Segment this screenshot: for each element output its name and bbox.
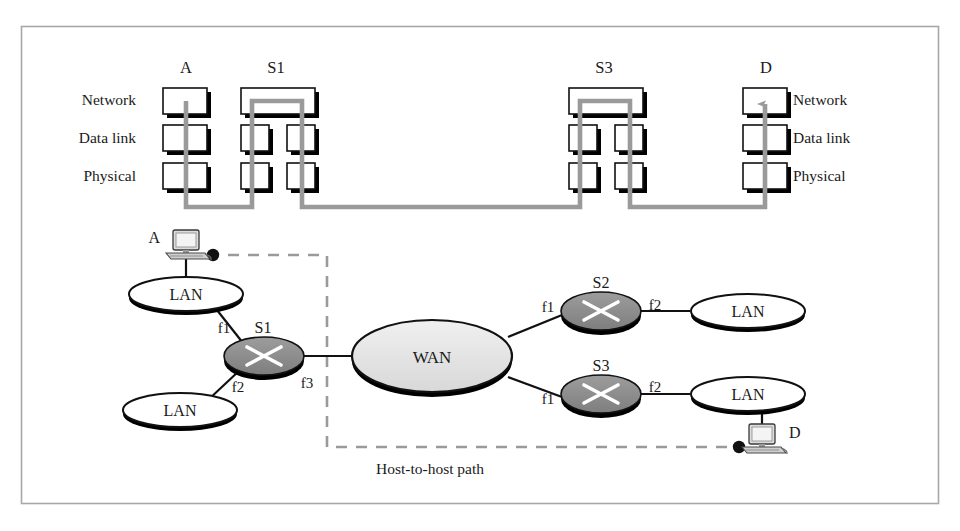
layer-box-s3-datalink-left — [569, 125, 597, 151]
stack-node-label-D: D — [760, 58, 772, 77]
interface-label-s1-f1: f1 — [218, 320, 231, 336]
wan-label: WAN — [413, 348, 452, 367]
row-label-physical-right: Physical — [793, 167, 846, 184]
cloud-lan-a: LAN — [129, 277, 243, 315]
cloud-wan: WAN — [352, 320, 512, 397]
interface-label-s2-f1: f1 — [542, 299, 555, 315]
host-d-screen — [752, 427, 772, 441]
figure-root: Network Data link Physical Network Data … — [0, 0, 960, 531]
host-to-host-path-label: Host-to-host path — [376, 460, 484, 477]
row-label-datalink-right: Data link — [793, 129, 850, 146]
stack-node-label-S3: S3 — [595, 58, 612, 77]
interface-label-s1-f2: f2 — [232, 379, 245, 395]
host-a-label: A — [148, 229, 160, 246]
layer-box-s3-physical-left — [569, 163, 597, 189]
row-label-datalink-left: Data link — [79, 129, 136, 146]
network-layering-figure: Network Data link Physical Network Data … — [0, 0, 960, 531]
router-s1-label: S1 — [255, 319, 272, 336]
interface-label-s3-f1: f1 — [542, 391, 555, 407]
lan-a-label: LAN — [170, 286, 203, 303]
interface-label-s3-f2: f2 — [649, 379, 662, 395]
interface-label-s1-f3: f3 — [301, 375, 314, 391]
layer-box-s1-datalink-left — [241, 125, 269, 151]
stack-node-label-S1: S1 — [267, 58, 284, 77]
cloud-lan-b: LAN — [123, 393, 237, 431]
stack-node-label-A: A — [180, 58, 192, 77]
layer-box-s1-physical-left — [241, 163, 269, 189]
lan-s2-label: LAN — [732, 303, 765, 320]
host-a-screen — [176, 233, 196, 247]
row-label-network-right: Network — [793, 91, 847, 108]
interface-label-s2-f2: f2 — [649, 297, 662, 313]
cloud-lan-s3: LAN — [691, 377, 805, 415]
lan-s3-label: LAN — [732, 386, 765, 403]
row-label-network-left: Network — [82, 91, 136, 108]
cloud-lan-s2: LAN — [691, 294, 805, 332]
router-s2-label: S2 — [593, 274, 610, 291]
router-s3-label: S3 — [593, 357, 610, 374]
host-d-label: D — [789, 424, 801, 441]
lan-b-label: LAN — [164, 402, 197, 419]
row-label-physical-left: Physical — [83, 167, 136, 184]
